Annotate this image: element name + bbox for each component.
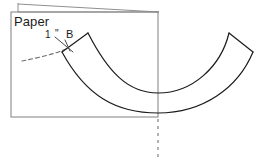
- dimension-unit-label: ": [55, 29, 59, 39]
- paper-perspective-edge: [18, 4, 159, 12]
- band-right-cap: [229, 33, 253, 52]
- paper-label: Paper: [14, 15, 49, 28]
- diagram-canvas: Paper 1 " B: [0, 0, 262, 164]
- point-b-label: B: [66, 29, 73, 40]
- tangent-dashed-curve: [22, 49, 66, 61]
- dimension-value-label: 1: [45, 30, 51, 40]
